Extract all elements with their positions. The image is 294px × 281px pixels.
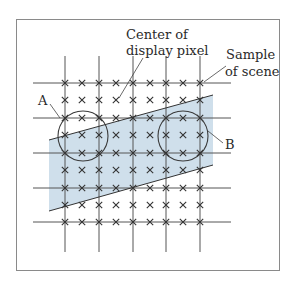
label-a: A: [37, 93, 48, 108]
label-sample: Sample: [226, 47, 275, 62]
label-center-of: Center of: [126, 27, 189, 42]
label-of-scene: of scene: [225, 64, 280, 79]
label-display-pixel: display pixel: [126, 43, 209, 58]
diagram-canvas: Center of display pixel Sample of scene …: [0, 0, 294, 281]
pixel-sampling-diagram: Center of display pixel Sample of scene …: [0, 0, 294, 281]
label-b: B: [225, 137, 235, 152]
